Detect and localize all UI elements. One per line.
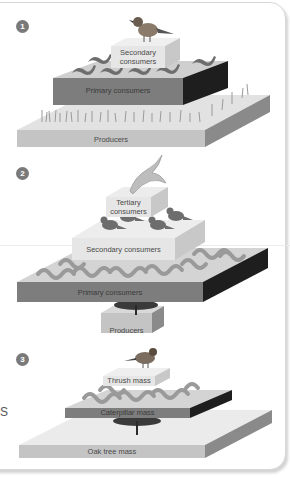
level-label-producers: Producers — [17, 135, 205, 144]
level-label-primary-consumers: Primary consumers — [17, 288, 203, 297]
level-label-caterpillar-mass: Caterpillar mass — [65, 408, 190, 417]
level-label-secondary-consumers: Secondaryconsumers — [111, 48, 165, 66]
level-label-tertiary-consumers: Tertiaryconsumers — [106, 198, 151, 216]
pyramid-panel-2: 2 — [0, 150, 290, 330]
pyramid-panel-1: 1 — [0, 0, 290, 155]
thrush-icon — [124, 348, 157, 368]
level-label-primary-consumers: Primary consumers — [53, 86, 183, 95]
pyramid-2-graphic — [0, 150, 290, 335]
level-label-thrush-mass: Thrush mass — [103, 376, 155, 385]
level-label-secondary-consumers: Secondary consumers — [72, 245, 175, 254]
level-label-oak-tree-mass: Oak tree mass — [19, 447, 205, 456]
pyramid-1-graphic — [0, 0, 290, 155]
pyramid-panel-3: 3 Thrush m — [0, 330, 290, 470]
